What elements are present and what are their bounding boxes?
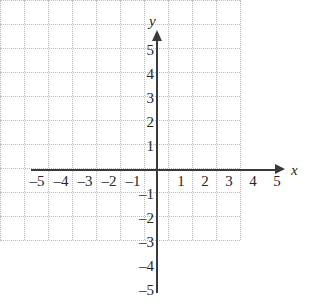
y-tick-label--1: –1 — [128, 187, 154, 202]
x-axis-label: x — [291, 163, 298, 178]
x-tick-label-3: 3 — [217, 174, 241, 189]
y-tick-label--2: –2 — [128, 211, 154, 226]
gridline-horizontal — [0, 0, 240, 1]
x-tick-label--3: –3 — [73, 174, 97, 189]
x-tick-label--5: –5 — [25, 174, 49, 189]
gridline-vertical — [240, 0, 241, 240]
x-tick-label-5: 5 — [265, 174, 289, 189]
gridline-horizontal — [0, 144, 240, 145]
y-tick-label--5: –5 — [128, 283, 154, 298]
gridline-horizontal — [0, 48, 240, 49]
y-tick-label--4: –4 — [128, 259, 154, 274]
gridline-horizontal — [0, 96, 240, 97]
gridline-horizontal — [0, 192, 240, 193]
y-tick-label-4: 4 — [128, 67, 154, 82]
gridline-horizontal — [0, 240, 240, 241]
y-tick-label-2: 2 — [128, 115, 154, 130]
gridline-horizontal — [0, 72, 240, 73]
x-tick-label--4: –4 — [49, 174, 73, 189]
x-axis-line — [31, 169, 276, 171]
x-tick-label-2: 2 — [193, 174, 217, 189]
x-tick-label--2: –2 — [97, 174, 121, 189]
gridline-horizontal — [0, 120, 240, 121]
coordinate-plane: –5 –4 –3 –2 –1 1 2 3 4 5 5 4 3 2 1 –1 –2… — [0, 0, 316, 307]
y-axis-label: y — [149, 14, 156, 29]
gridline-horizontal — [0, 216, 240, 217]
y-axis-line — [156, 40, 158, 293]
y-tick-label-5: 5 — [128, 43, 154, 58]
y-tick-label-3: 3 — [128, 91, 154, 106]
y-tick-label--3: –3 — [128, 235, 154, 250]
y-tick-label-1: 1 — [128, 139, 154, 154]
gridline-horizontal — [0, 24, 240, 25]
x-tick-label-4: 4 — [241, 174, 265, 189]
x-tick-label-1: 1 — [169, 174, 193, 189]
y-axis-arrow-icon — [152, 30, 162, 41]
